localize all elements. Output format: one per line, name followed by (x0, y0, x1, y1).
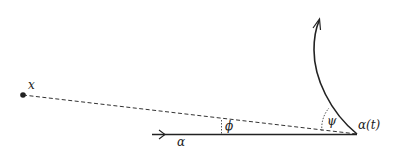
label-phi: ϕ (225, 119, 233, 133)
label-x: x (28, 78, 35, 92)
point-x (20, 92, 26, 98)
label-alpha-t: α(t) (358, 118, 381, 132)
diagram-canvas: x α ϕ ψ α(t) (0, 0, 397, 151)
label-psi: ψ (327, 114, 337, 128)
label-alpha: α (177, 135, 185, 149)
dashed-line-x-to-alpha-t (23, 95, 357, 134)
